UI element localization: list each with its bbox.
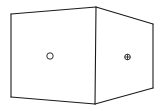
- box-diagram: [0, 0, 160, 111]
- box: [11, 7, 153, 104]
- crosshair-circle-icon: [125, 54, 131, 60]
- open-circle-icon: [47, 53, 53, 59]
